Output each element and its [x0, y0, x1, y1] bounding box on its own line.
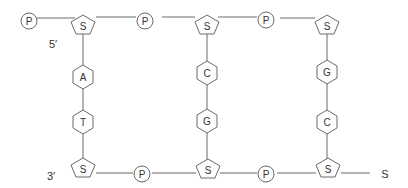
- sugar-label: S: [205, 165, 212, 176]
- base-label: T: [80, 117, 86, 128]
- sugar-node: S: [315, 15, 339, 34]
- base-node: T: [73, 110, 93, 134]
- sugar-label: S: [80, 164, 87, 175]
- sugar-label: S: [204, 21, 211, 32]
- sugar-node: S: [316, 158, 340, 177]
- trailing-sugar-label: S: [381, 168, 388, 180]
- base-node: G: [317, 60, 337, 84]
- base-label: C: [323, 117, 330, 128]
- base-label: A: [80, 72, 87, 83]
- phosphate-node: P: [134, 166, 150, 182]
- three-prime-label: 3′: [47, 170, 55, 182]
- five-prime-label: 5′: [49, 38, 57, 50]
- sugar-node: S: [195, 15, 219, 34]
- phosphate-node: P: [137, 13, 153, 29]
- base-label: G: [203, 116, 211, 127]
- base-node: G: [197, 109, 217, 133]
- base-pair-rungs: [83, 33, 327, 160]
- phosphate-label: P: [263, 169, 270, 180]
- dna-diagram: P S P S P S A T C G G C: [0, 0, 408, 188]
- base-label: C: [203, 68, 210, 79]
- phosphate-node: P: [258, 12, 274, 28]
- sugar-label: S: [80, 21, 87, 32]
- sugar-label: S: [324, 21, 331, 32]
- base-node: A: [73, 65, 93, 89]
- phosphate-node: P: [21, 13, 37, 29]
- phosphate-node: P: [258, 166, 274, 182]
- phosphate-label: P: [26, 16, 33, 27]
- phosphate-label: P: [142, 16, 149, 27]
- sugar-label: S: [325, 164, 332, 175]
- base-node: C: [317, 110, 337, 134]
- base-label: G: [323, 67, 331, 78]
- phosphate-label: P: [263, 15, 270, 26]
- phosphate-label: P: [139, 169, 146, 180]
- sugar-node: S: [71, 158, 95, 177]
- base-node: C: [197, 61, 217, 85]
- sugar-node: S: [196, 159, 220, 178]
